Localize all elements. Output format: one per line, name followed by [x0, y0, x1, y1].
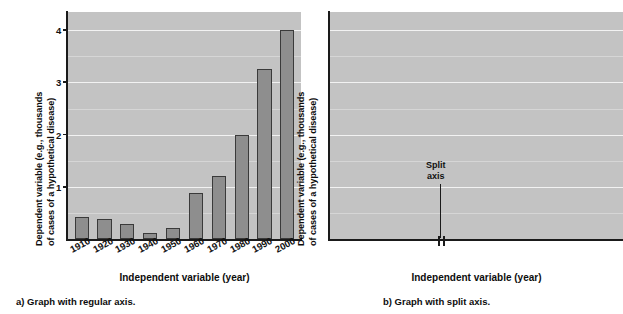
bar-1980: [235, 135, 249, 239]
figure-two-bar-charts: Dependent variable (e.g., thousands of c…: [0, 0, 623, 314]
panel-a-regular-axis: Dependent variable (e.g., thousands of c…: [0, 0, 311, 314]
panel-b-plot-area: [330, 12, 623, 239]
gridline-minor: [68, 56, 301, 57]
gridline-major: [330, 30, 623, 31]
panel-a-y-axis-title: Dependent variable (e.g., thousands of c…: [34, 92, 57, 246]
panel-a-y-axis-title-line1: Dependent variable (e.g., thousands: [34, 92, 46, 246]
panel-b-caption: b) Graph with split axis.: [383, 296, 490, 307]
y-tick-label: 3: [56, 77, 61, 88]
panel-a-x-axis-title: Independent variable (year): [68, 272, 301, 283]
gridline-minor: [330, 161, 623, 162]
y-tick-mark: [63, 134, 68, 136]
gridline-major: [330, 135, 623, 136]
split-axis-break-mark-left: [438, 236, 440, 246]
panel-b-y-axis-title-line2: of cases of a hypothetical disease): [308, 92, 320, 246]
split-axis-leader-line: [440, 184, 441, 238]
panel-a-y-axis-line: [66, 11, 68, 241]
gridline-minor: [330, 56, 623, 57]
split-axis-break-mark-right: [443, 236, 445, 246]
panel-b-x-axis-title: Independent variable (year): [330, 272, 623, 283]
y-tick-mark: [63, 81, 68, 83]
panel-b-y-axis-title: Dependent variable (e.g., thousands of c…: [296, 92, 319, 246]
panel-a-y-axis-title-line2: of cases of a hypothetical disease): [46, 92, 58, 246]
gridline-major: [330, 82, 623, 83]
bar-1960: [189, 193, 203, 239]
panel-b-x-axis-line: [328, 239, 623, 241]
panel-b-split-axis: Dependent variable (e.g., thousands of c…: [311, 0, 623, 314]
split-axis-annotation-line2: axis: [426, 171, 446, 182]
y-tick-mark: [63, 186, 68, 188]
split-axis-annotation-line1: Split: [426, 160, 446, 171]
panel-b-y-axis-title-line1: Dependent variable (e.g., thousands: [296, 92, 308, 246]
y-tick-label: 2: [56, 129, 61, 140]
bar-1990: [257, 69, 271, 239]
gridline-major: [330, 187, 623, 188]
gridline-minor: [330, 109, 623, 110]
bar-1970: [212, 176, 226, 239]
panel-a-caption: a) Graph with regular axis.: [16, 296, 135, 307]
panel-b-y-axis-line: [328, 11, 330, 241]
bar-2000: [280, 30, 294, 239]
y-tick-label: 4: [56, 25, 61, 36]
gridline-major: [68, 30, 301, 31]
y-tick-mark: [63, 29, 68, 31]
split-axis-annotation: Split axis: [426, 160, 446, 182]
y-tick-label: 1: [56, 181, 61, 192]
gridline-minor: [330, 213, 623, 214]
